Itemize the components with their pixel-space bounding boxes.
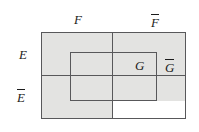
- label-f-bar-text: F: [151, 14, 159, 29]
- label-g-bar: G: [165, 57, 174, 74]
- label-e-bar: E: [17, 87, 25, 104]
- label-f-text: F: [74, 13, 82, 26]
- label-e-text: E: [19, 48, 27, 61]
- label-g: G: [135, 59, 144, 72]
- label-f: F: [74, 13, 82, 26]
- label-e: E: [19, 48, 27, 61]
- label-f-bar: F: [151, 12, 159, 29]
- label-g-text: G: [135, 59, 144, 72]
- label-e-bar-text: E: [17, 89, 25, 104]
- set-diagram-figure: F F E E G G: [0, 0, 199, 132]
- label-g-bar-text: G: [165, 59, 174, 74]
